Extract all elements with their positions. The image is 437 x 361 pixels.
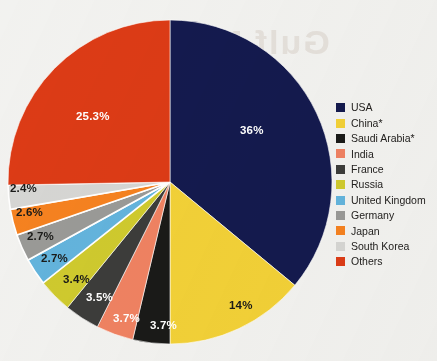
legend-color-swatch [336,149,345,158]
legend-item-germany[interactable]: Germany [336,208,437,223]
legend-item-label: Saudi Arabia* [351,133,415,144]
legend-item-united-kingdom[interactable]: United Kingdom [336,192,437,207]
legend-item-india[interactable]: India [336,146,437,161]
legend-item-usa[interactable]: USA [336,100,437,115]
legend-item-japan[interactable]: Japan [336,223,437,238]
legend-color-swatch [336,165,345,174]
legend-item-label: France [351,164,384,175]
legend-item-label: United Kingdom [351,195,426,206]
legend-color-swatch [336,257,345,266]
legend-color-swatch [336,180,345,189]
pie-slice-value-label: 2.7% [27,230,54,242]
pie-slice[interactable] [8,20,170,185]
legend-item-france[interactable]: France [336,162,437,177]
pie-chart-svg: 36%14%3.7%3.7%3.5%3.4%2.7%2.7%2.6%2.4%25… [0,0,340,361]
pie-slice-value-label: 3.4% [63,273,90,285]
pie-slice-value-label: 3.7% [150,319,177,331]
pie-slice-value-label: 2.6% [16,206,43,218]
pie-slice-value-label: 3.5% [86,291,113,303]
legend-color-swatch [336,134,345,143]
pie-slice-value-label: 2.7% [41,252,68,264]
legend-item-china[interactable]: China* [336,115,437,130]
pie-slice-value-label: 25.3% [76,110,110,122]
legend-item-label: USA [351,102,373,113]
legend-item-russia[interactable]: Russia [336,177,437,192]
pie-slice-value-label: 14% [229,299,253,311]
legend-color-swatch [336,196,345,205]
chart-legend: USAChina*Saudi Arabia*IndiaFranceRussiaU… [336,100,437,269]
legend-item-label: South Korea [351,241,409,252]
legend-item-label: Germany [351,210,394,221]
legend-item-saudi-arabia[interactable]: Saudi Arabia* [336,131,437,146]
legend-color-swatch [336,211,345,220]
legend-item-south-korea[interactable]: South Korea [336,239,437,254]
legend-item-label: Others [351,256,383,267]
legend-color-swatch [336,103,345,112]
legend-item-label: India [351,149,374,160]
pie-slice-value-label: 2.4% [10,182,37,194]
legend-color-swatch [336,226,345,235]
pie-slice-group [8,20,332,344]
pie-slice-value-label: 36% [240,124,264,136]
legend-item-label: Japan [351,226,380,237]
legend-item-label: Russia [351,179,383,190]
legend-color-swatch [336,242,345,251]
legend-item-label: China* [351,118,383,129]
legend-color-swatch [336,119,345,128]
legend-item-others[interactable]: Others [336,254,437,269]
pie-slice-value-label: 3.7% [113,312,140,324]
pie-chart: 36%14%3.7%3.7%3.5%3.4%2.7%2.7%2.6%2.4%25… [0,0,340,361]
